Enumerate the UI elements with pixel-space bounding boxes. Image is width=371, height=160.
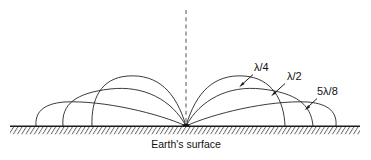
lobe-lambda4-right (186, 76, 285, 126)
earth-surface-group (6, 126, 366, 135)
lobe-lambda4-left (92, 76, 186, 126)
radiation-pattern-diagram: λ/4 λ/2 5λ/8 Earth's surface (0, 0, 371, 160)
ground-hatching (6, 126, 366, 135)
earth-surface-caption: Earth's surface (151, 138, 221, 150)
label-5-lambda-over-8: 5λ/8 (317, 85, 338, 97)
lobe-5lambda8-right (186, 102, 336, 126)
label-lambda-over-2: λ/2 (287, 70, 302, 82)
antenna-radiation-pattern-figure: λ/4 λ/2 5λ/8 Earth's surface (0, 0, 371, 160)
lobes-left (36, 76, 186, 126)
lobes-right (186, 76, 336, 126)
lobe-5lambda8-left (36, 102, 186, 126)
callout-leaders (239, 75, 317, 111)
label-lambda-over-4: λ/4 (254, 61, 269, 73)
